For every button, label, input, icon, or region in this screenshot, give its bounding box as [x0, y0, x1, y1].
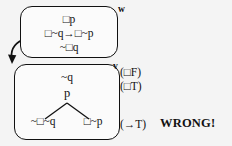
annotation-box-false: (□F)	[120, 66, 141, 78]
world-v-box: ~q p ~□~q □~p	[14, 64, 120, 140]
world-w-box: □p □~q→□~p ~□q	[20, 6, 118, 58]
verdict-label: WRONG!	[160, 117, 215, 130]
annotation-box-true: (□T)	[120, 80, 142, 92]
world-label-v: v	[113, 62, 118, 72]
tree-node-p: p	[15, 87, 119, 99]
formula-not-box-q: ~□q	[21, 41, 117, 53]
modal-logic-diagram: □p □~q→□~p ~□q w ~q p ~□~q □~p v (□F) (□…	[0, 0, 232, 146]
tree-leaf-left: ~□~q	[19, 115, 67, 127]
formula-implication: □~q→□~p	[21, 27, 117, 39]
world-label-w: w	[118, 5, 125, 15]
annotation-arrow-true: (→T)	[120, 118, 146, 130]
formula-box-p: □p	[21, 13, 117, 25]
tree-leaf-right: □~p	[69, 115, 117, 127]
tree-root-not-q: ~q	[15, 71, 119, 83]
